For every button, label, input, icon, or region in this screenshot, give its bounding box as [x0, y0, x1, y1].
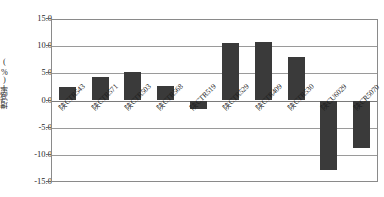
y-axis-title: 增减率(%): [0, 58, 14, 109]
bar-chart: 增减率(%) 15.010.05.00.0-5.0-10.0-15.0 陕CTR…: [0, 0, 384, 197]
